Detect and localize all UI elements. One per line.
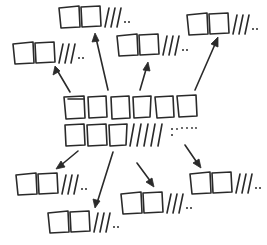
card xyxy=(88,96,107,118)
arrow-to-top-left-icon xyxy=(53,66,70,92)
satellite-bottom-center-right xyxy=(121,192,192,214)
satellite-top-right xyxy=(187,13,258,35)
central-pile xyxy=(64,95,197,146)
ellipsis-dots xyxy=(171,127,197,136)
arrow-to-bottom-left-icon xyxy=(56,151,78,169)
arrow-to-center-right-icon xyxy=(140,62,150,90)
central-row-1 xyxy=(64,95,197,119)
card xyxy=(155,96,174,118)
satellite-bottom-center-left xyxy=(48,211,119,233)
satellite-center-right xyxy=(117,34,188,56)
card xyxy=(111,96,130,119)
arrow-to-bottom-center-right-icon xyxy=(137,163,154,187)
arrow-to-top-center-icon xyxy=(92,33,108,90)
arrow-to-top-right-icon xyxy=(195,37,218,90)
central-row-2 xyxy=(65,124,197,146)
arrow-to-bottom-center-left-icon xyxy=(93,152,113,208)
tally-marks xyxy=(130,124,162,146)
arrows xyxy=(53,33,218,208)
card xyxy=(87,124,107,146)
diagram-canvas xyxy=(0,0,267,245)
satellite-top-left xyxy=(13,42,84,64)
card xyxy=(133,96,151,118)
satellite-bottom-left xyxy=(16,173,87,195)
sketch-svg xyxy=(0,0,267,245)
satellite-top-center xyxy=(59,6,130,28)
card xyxy=(109,124,127,146)
card xyxy=(65,124,85,146)
satellite-bottom-right xyxy=(190,172,261,194)
card xyxy=(177,95,197,117)
arrow-to-bottom-right-icon xyxy=(185,145,201,168)
